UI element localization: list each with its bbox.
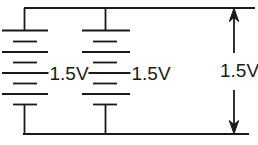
battery-left-label: 1.5V xyxy=(50,63,89,84)
voltage-arrow-label: 1.5V xyxy=(220,60,258,81)
battery-left xyxy=(2,8,49,134)
circuit-svg: 1.5V 1.5V 1.5V xyxy=(0,0,258,145)
battery-right-label: 1.5V xyxy=(132,63,171,84)
circuit-wiring xyxy=(2,8,255,134)
battery-right xyxy=(82,8,131,134)
circuit-diagram: 1.5V 1.5V 1.5V xyxy=(0,0,258,145)
